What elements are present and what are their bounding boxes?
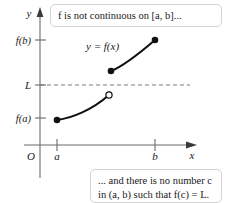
point-fa-filled bbox=[54, 117, 61, 124]
y-axis-label: y bbox=[26, 7, 32, 19]
x-axis-label: x bbox=[189, 149, 195, 161]
y-tick-label-fb: f(b) bbox=[16, 35, 32, 47]
origin-label: O bbox=[27, 150, 35, 162]
callout-bottom-line1: ... and there is no number c bbox=[98, 174, 215, 188]
point-jump-filled bbox=[108, 68, 115, 75]
x-axis-arrow-icon bbox=[186, 141, 197, 148]
y-tick-label-L: L bbox=[24, 79, 31, 91]
curve-left-branch bbox=[57, 95, 109, 120]
curve-label: y = f(x) bbox=[85, 40, 119, 53]
point-fb-filled bbox=[152, 37, 159, 44]
y-tick-label-fa: f(a) bbox=[16, 113, 32, 125]
callout-bottom: ... and there is no number c in (a, b) s… bbox=[90, 169, 222, 203]
x-tick-label-a: a bbox=[54, 150, 60, 162]
callout-bottom-line2: in (a, b) such that f(c) = L. bbox=[98, 188, 215, 202]
continuity-figure: y x O f(b) L f(a) a b y = f(x) f is not … bbox=[0, 0, 226, 203]
x-tick-label-b: b bbox=[152, 150, 158, 162]
y-axis-arrow-icon bbox=[37, 7, 44, 17]
callout-top: f is not continuous on [a, b]... bbox=[50, 4, 222, 27]
point-left-limit-open bbox=[106, 92, 112, 98]
callout-top-text: f is not continuous on [a, b]... bbox=[58, 10, 182, 21]
